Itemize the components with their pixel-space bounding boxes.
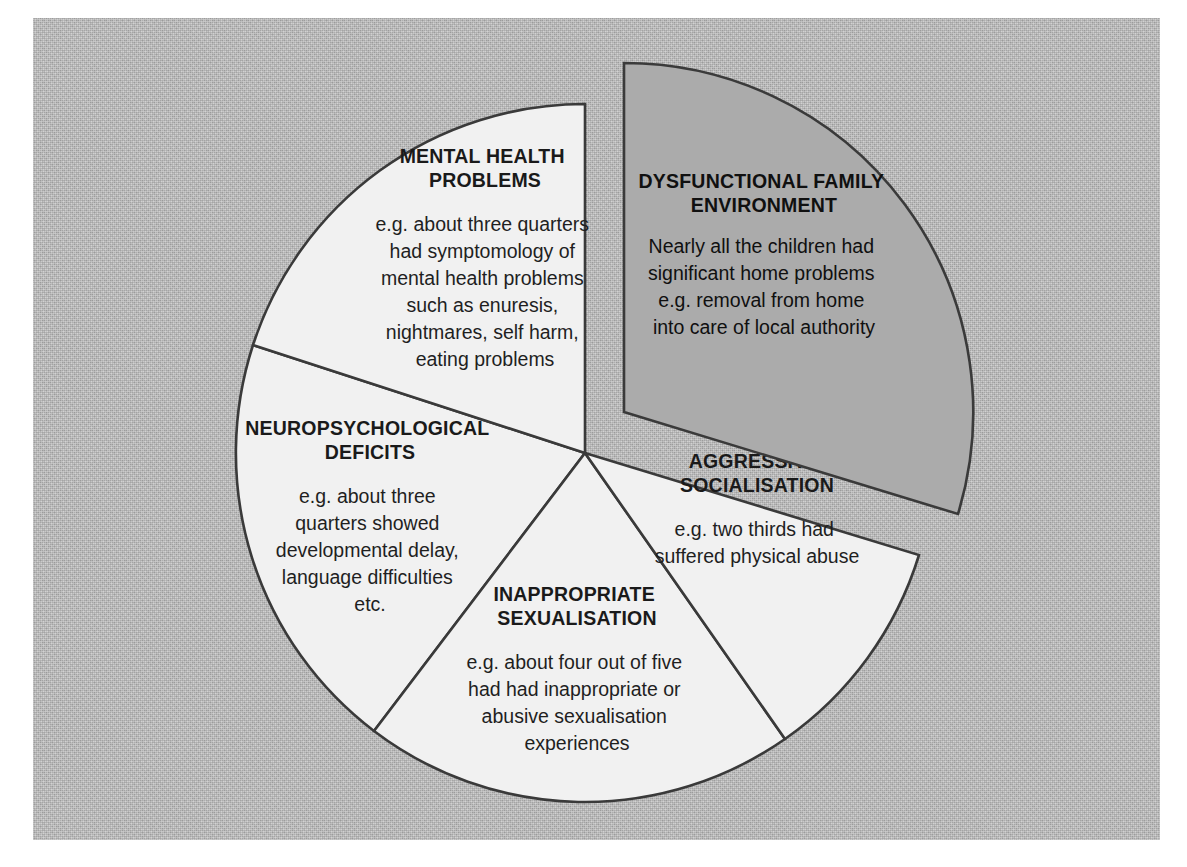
pie-slice-dysfunctional-family-environment[interactable]: DYSFUNCTIONAL FAMILY ENVIRONMENT Nearly … [624, 63, 973, 514]
pie-chart: NEUROPSYCHOLOGICAL DEFICITS e.g. about t… [0, 0, 1187, 867]
figure-page: NEUROPSYCHOLOGICAL DEFICITS e.g. about t… [0, 0, 1187, 867]
